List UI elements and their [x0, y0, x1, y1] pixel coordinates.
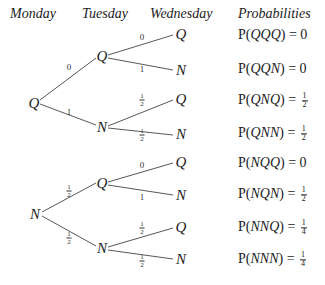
- prob-qnq-value: 12: [302, 93, 308, 110]
- edge-label-n-q: 12: [67, 184, 72, 199]
- prob-nqn: P(NQN) = 12: [238, 186, 307, 203]
- node-wed-qqq: Q: [176, 26, 187, 43]
- edge-label-nn-q: 12: [140, 221, 145, 236]
- prob-qqn: P(QQN) = 0: [238, 61, 307, 77]
- edge-label-n-n: 12: [67, 231, 72, 246]
- prob-qnn: P(QNN) = 12: [238, 125, 307, 142]
- edge-label-q-n: 1: [67, 107, 72, 117]
- edge-label-nn-n: 12: [140, 254, 145, 269]
- node-wed-nnn: N: [176, 251, 186, 268]
- prob-nnq: P(NNQ) = 14: [238, 219, 307, 236]
- prob-qqq: P(QQQ) = 0: [238, 27, 307, 43]
- node-wed-qnq: Q: [176, 91, 187, 108]
- edge-label-qq-n: 1: [140, 64, 145, 74]
- node-tue-nq: Q: [97, 175, 108, 192]
- node-root-q: Q: [29, 95, 40, 112]
- prob-nqq: P(NQQ) = 0: [238, 155, 307, 171]
- edge-label-qn-q: 12: [140, 93, 145, 108]
- edge-label-nq-n: 1: [140, 192, 145, 202]
- node-wed-nqq: Q: [176, 154, 187, 171]
- node-tue-qn: N: [97, 119, 107, 136]
- edge-label-q-q: 0: [67, 62, 72, 72]
- prob-nnn-value: 14: [300, 252, 306, 269]
- node-wed-qnn: N: [176, 126, 186, 143]
- prob-nnn: P(NNN) = 14: [238, 251, 306, 268]
- edge-label-nq-q: 0: [140, 160, 145, 170]
- node-tue-nn: N: [97, 240, 107, 257]
- node-wed-nqn: N: [176, 187, 186, 204]
- prob-nqn-value: 12: [301, 187, 307, 204]
- prob-qnq: P(QNQ) = 12: [238, 92, 308, 109]
- edge-label-qq-q: 0: [140, 32, 145, 42]
- node-wed-qqn: N: [176, 62, 186, 79]
- node-root-n: N: [30, 206, 40, 223]
- edge-label-qn-n: 12: [140, 128, 145, 143]
- node-wed-nnq: Q: [176, 219, 187, 236]
- prob-nnq-value: 14: [301, 220, 307, 237]
- prob-qnn-value: 12: [301, 126, 307, 143]
- node-tue-qq: Q: [97, 48, 108, 65]
